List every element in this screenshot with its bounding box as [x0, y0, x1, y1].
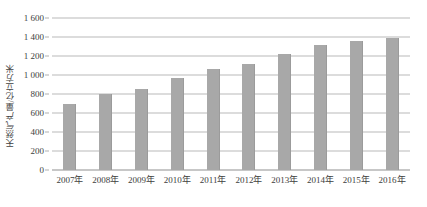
- y-axis-tick-mark: [45, 132, 49, 133]
- bar-slot: [52, 18, 88, 170]
- y-axis-tick-label: 800: [31, 90, 45, 99]
- bar[interactable]: [63, 104, 76, 170]
- y-axis-title: 天然气产量/亿立方米: [4, 50, 18, 162]
- bar[interactable]: [207, 69, 220, 170]
- x-axis-tick-label: 2013年: [267, 172, 303, 190]
- y-axis-tick-label: 1 600: [24, 14, 44, 23]
- bar-chart: 天然气产量/亿立方米 02004006008001 0001 2001 4001…: [0, 0, 427, 207]
- x-axis-tick-label: 2010年: [159, 172, 195, 190]
- y-axis-tick-mark: [45, 56, 49, 57]
- plot-area: 02004006008001 0001 2001 4001 600: [52, 18, 410, 170]
- x-axis-tick-label: 2008年: [88, 172, 124, 190]
- bar[interactable]: [386, 38, 399, 170]
- bar[interactable]: [278, 54, 291, 170]
- x-axis-tick-label: 2011年: [195, 172, 231, 190]
- y-axis-tick-mark: [45, 151, 49, 152]
- y-axis-tick-mark: [45, 18, 49, 19]
- x-axis-tick-label: 2007年: [52, 172, 88, 190]
- y-axis-tick-label: 1 400: [24, 33, 44, 42]
- y-axis-tick-label: 1 000: [24, 71, 44, 80]
- y-axis-title-text: 天然气产量/亿立方米: [7, 64, 16, 147]
- x-axis-tick-label: 2014年: [303, 172, 339, 190]
- y-axis-tick-label: 200: [31, 147, 45, 156]
- x-axis-tick-labels: 2007年2008年2009年2010年2011年2012年2013年2014年…: [52, 172, 410, 190]
- y-axis-tick-mark: [45, 113, 49, 114]
- bar[interactable]: [350, 41, 363, 170]
- y-axis-tick-label: 600: [31, 109, 45, 118]
- x-axis-tick-label: 2016年: [374, 172, 410, 190]
- bar-slot: [374, 18, 410, 170]
- bar-slot: [88, 18, 124, 170]
- bar-slot: [267, 18, 303, 170]
- bar-slot: [124, 18, 160, 170]
- bar-slot: [159, 18, 195, 170]
- y-axis-tick-mark: [45, 170, 49, 171]
- bar-slot: [231, 18, 267, 170]
- y-axis-tick-label: 0: [40, 166, 45, 175]
- bar-series: [52, 18, 410, 170]
- bar-slot: [195, 18, 231, 170]
- x-axis-tick-label: 2015年: [338, 172, 374, 190]
- bar[interactable]: [99, 94, 112, 170]
- bar[interactable]: [135, 89, 148, 170]
- y-axis-tick-label: 400: [31, 128, 45, 137]
- bar-slot: [303, 18, 339, 170]
- bar[interactable]: [242, 64, 255, 170]
- bar[interactable]: [314, 45, 327, 170]
- x-axis-tick-label: 2009年: [124, 172, 160, 190]
- y-axis-tick-mark: [45, 94, 49, 95]
- y-axis-tick-mark: [45, 37, 49, 38]
- bar-slot: [338, 18, 374, 170]
- bar[interactable]: [171, 78, 184, 170]
- x-axis-tick-label: 2012年: [231, 172, 267, 190]
- y-axis-tick-label: 1 200: [24, 52, 44, 61]
- y-axis-tick-mark: [45, 75, 49, 76]
- y-axis-tick-labels: 02004006008001 0001 2001 4001 600: [18, 18, 48, 170]
